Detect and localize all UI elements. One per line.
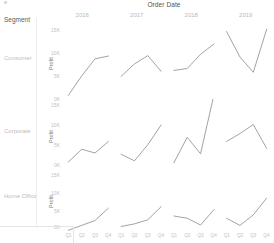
y-tick-label: 0K <box>46 162 60 168</box>
panel-corporate <box>62 99 273 169</box>
line-series-2017[interactable] <box>121 125 161 161</box>
line-series-2019[interactable] <box>227 29 267 72</box>
line-series-2019[interactable] <box>227 198 267 225</box>
x-tick-label: Q2 <box>181 233 194 243</box>
row-header-home-office[interactable]: Home Office <box>4 193 37 199</box>
panel-plot-consumer <box>62 24 273 102</box>
x-tick-label: Q2 <box>233 233 246 243</box>
row-header-consumer[interactable]: Consumer <box>4 55 32 61</box>
worksheet-corner-frame <box>0 226 74 243</box>
y-tick-label: 5K <box>46 142 60 148</box>
x-tick-label: Q4 <box>260 233 273 243</box>
x-tick-label: Q2 <box>128 233 141 243</box>
y-tick-label: 15K <box>46 172 60 178</box>
panel-consumer <box>62 24 273 102</box>
y-axis-title: Profit <box>48 57 54 70</box>
row-header-divider <box>36 18 37 228</box>
x-tick-label: Q1 <box>220 233 233 243</box>
y-tick-label: 5K <box>46 208 60 214</box>
line-series-2016[interactable] <box>68 208 108 230</box>
x-tick-label: Q3 <box>194 233 207 243</box>
x-tick-label: Q3 <box>88 233 101 243</box>
visualization-canvas: Order Date 2016 2017 2018 2019 Segment C… <box>0 0 273 243</box>
line-series-2016[interactable] <box>68 56 108 95</box>
line-series-2017[interactable] <box>121 56 161 77</box>
x-tick-label: Q2 <box>75 233 88 243</box>
y-tick-label: 10K <box>46 190 60 196</box>
panel-plot-home-office <box>62 169 273 233</box>
x-tick-label: Q3 <box>247 233 260 243</box>
line-series-2016[interactable] <box>68 141 108 162</box>
x-tick-label: Q4 <box>207 233 220 243</box>
row-field-title: Segment <box>4 16 30 23</box>
line-series-2019[interactable] <box>227 125 267 149</box>
x-axis-year-group: Q1 Q2 Q3 Q4 <box>115 233 168 243</box>
column-header-years: 2016 2017 2018 2019 <box>55 12 273 22</box>
y-tick-label: 10K <box>46 50 60 56</box>
app-mark-icon <box>4 1 7 4</box>
line-series-2018[interactable] <box>174 99 214 163</box>
line-series-2018[interactable] <box>174 210 214 225</box>
y-tick-label: 5K <box>46 73 60 79</box>
x-tick-label: Q1 <box>115 233 128 243</box>
x-tick-label: Q3 <box>141 233 154 243</box>
column-header-year[interactable]: 2018 <box>164 12 219 22</box>
x-axis-year-group: Q1 Q2 Q3 Q4 <box>220 233 273 243</box>
x-tick-label: Q4 <box>102 233 115 243</box>
panel-plot-corporate <box>62 99 273 169</box>
x-tick-label: Q1 <box>168 233 181 243</box>
line-series-2017[interactable] <box>121 207 161 227</box>
y-tick-label: 15K <box>46 27 60 33</box>
column-field-title: Order Date <box>55 1 273 8</box>
line-series-2018[interactable] <box>174 44 214 70</box>
panel-home-office <box>62 169 273 233</box>
y-tick-label: 15K <box>46 102 60 108</box>
column-header-year[interactable]: 2019 <box>219 12 274 22</box>
column-header-year[interactable]: 2017 <box>110 12 165 22</box>
x-axis-year-group: Q1 Q2 Q3 Q4 <box>168 233 221 243</box>
column-header-year[interactable]: 2016 <box>55 12 110 22</box>
x-tick-label: Q4 <box>154 233 167 243</box>
row-header-corporate[interactable]: Corporate <box>4 128 31 134</box>
x-axis: Q1 Q2 Q3 Q4 Q1 Q2 Q3 Q4 Q1 Q2 Q3 Q4 Q1 Q… <box>62 233 273 243</box>
y-axis-title: Profit <box>48 195 54 208</box>
y-tick-label: 10K <box>46 122 60 128</box>
